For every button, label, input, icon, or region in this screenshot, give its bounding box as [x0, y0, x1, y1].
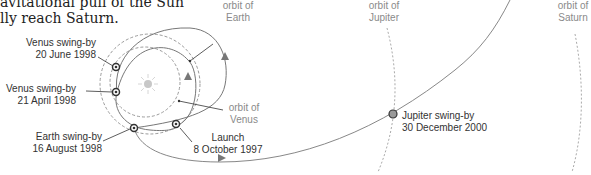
marker-earth-swingby — [131, 125, 138, 132]
label-earth-swingby: Earth swing-by 16 August 1998 — [18, 131, 102, 155]
label-orbit-venus: orbit of Venus — [224, 102, 264, 126]
marker-venus-swingby-1 — [113, 64, 120, 71]
direction-arrow-icon — [184, 72, 192, 80]
label-orbit-jupiter: orbit of Jupiter — [362, 0, 406, 24]
leader-lines — [86, 44, 223, 142]
direction-arrow-icon — [221, 52, 229, 60]
label-venus-swingby-1: Venus swing-by 20 June 1998 — [18, 37, 96, 61]
label-jupiter-swingby: Jupiter swing-by 30 December 2000 — [402, 110, 487, 134]
label-orbit-earth: orbit of Earth — [218, 0, 258, 24]
trajectory-loop-2 — [116, 28, 226, 128]
label-launch: Launch 8 October 1997 — [188, 132, 268, 156]
marker-venus-swingby-2 — [113, 89, 120, 96]
marker-jupiter-swingby — [389, 110, 397, 118]
marker-launch — [173, 121, 180, 128]
label-orbit-saturn: orbit of Saturn — [553, 0, 591, 24]
orbit-saturn-line — [572, 34, 581, 172]
orbit-jupiter-line — [378, 28, 395, 172]
sun-icon — [138, 74, 158, 94]
label-venus-swingby-2: Venus swing-by 21 April 1998 — [0, 83, 76, 107]
